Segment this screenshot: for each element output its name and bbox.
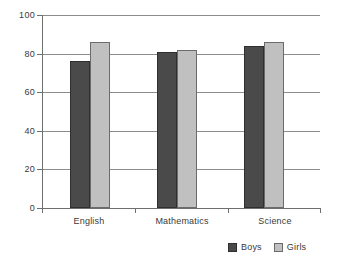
x-tick-mark-3 bbox=[320, 208, 321, 213]
plot-area bbox=[42, 15, 320, 208]
bar-science-boys bbox=[244, 46, 264, 208]
y-axis-label-40: 40 bbox=[24, 127, 35, 136]
x-tick-mark-0 bbox=[42, 208, 43, 213]
y-axis-label-20: 20 bbox=[24, 165, 35, 174]
bar-english-boys bbox=[70, 61, 90, 208]
y-tick-mark-100 bbox=[37, 15, 42, 16]
legend-label-girls: Girls bbox=[287, 242, 307, 252]
bar-mathematics-girls bbox=[177, 50, 197, 208]
x-tick-mark-1 bbox=[135, 208, 136, 213]
boys-swatch-icon bbox=[228, 243, 237, 252]
x-axis-label-english: English bbox=[74, 216, 105, 227]
gridline-100 bbox=[42, 15, 320, 16]
x-axis-label-science: Science bbox=[258, 216, 291, 227]
bar-mathematics-boys bbox=[157, 52, 177, 208]
x-axis-label-mathematics: Mathematics bbox=[155, 216, 208, 227]
bar-chart-figure: 100 80 60 40 20 0 English Mathematics Sc… bbox=[0, 0, 339, 266]
y-axis-label-100: 100 bbox=[19, 11, 35, 20]
y-axis-label-80: 80 bbox=[24, 50, 35, 59]
x-axis-line bbox=[42, 208, 320, 209]
y-tick-mark-60 bbox=[37, 92, 42, 93]
legend-entry-girls: Girls bbox=[274, 242, 307, 252]
bar-english-girls bbox=[90, 42, 110, 208]
y-tick-mark-40 bbox=[37, 131, 42, 132]
y-axis-label-0: 0 bbox=[30, 204, 35, 213]
y-tick-mark-80 bbox=[37, 54, 42, 55]
legend-label-boys: Boys bbox=[241, 242, 262, 252]
y-axis-label-60: 60 bbox=[24, 88, 35, 97]
legend-entry-boys: Boys bbox=[228, 242, 262, 252]
y-tick-mark-20 bbox=[37, 169, 42, 170]
chart-legend: Boys Girls bbox=[228, 242, 306, 252]
x-tick-mark-2 bbox=[228, 208, 229, 213]
bar-science-girls bbox=[264, 42, 284, 208]
girls-swatch-icon bbox=[274, 243, 283, 252]
y-axis-line bbox=[42, 15, 43, 209]
